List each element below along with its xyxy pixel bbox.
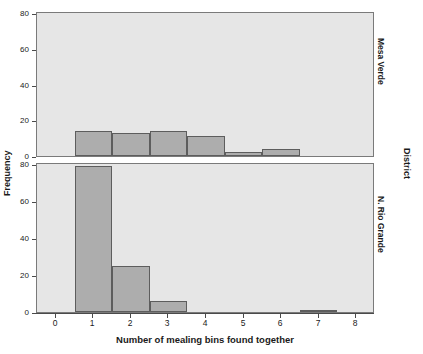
plot-area-n-rio-grande: [37, 164, 373, 312]
bar: [150, 301, 188, 312]
y-tick-mark: [32, 14, 36, 15]
x-tick-label: 8: [348, 319, 362, 328]
strip-label-mesa-verde: Mesa Verde: [376, 38, 386, 85]
bar: [75, 166, 113, 312]
y-tick-mark: [32, 86, 36, 87]
bar: [112, 266, 150, 312]
plot-area-mesa-verde: [37, 13, 373, 156]
y-tick-mark: [32, 313, 36, 314]
panel-n-rio-grande: [36, 163, 374, 313]
bar: [187, 136, 225, 156]
bar: [75, 131, 113, 156]
y-axis-title: Frequency: [2, 182, 12, 196]
x-tick-label: 6: [273, 319, 287, 328]
y-tick-mark: [32, 165, 36, 166]
y-tick-label: 80: [11, 161, 29, 169]
x-tick-label: 7: [311, 319, 325, 328]
y-tick-mark: [32, 202, 36, 203]
bar: [225, 152, 263, 156]
y-tick-mark: [32, 121, 36, 122]
y-tick-label: 40: [11, 82, 29, 90]
y-tick-label: 60: [11, 198, 29, 206]
bar: [112, 133, 150, 156]
x-tick-label: 3: [160, 319, 174, 328]
bar: [262, 149, 300, 156]
y-tick-label: 60: [11, 46, 29, 54]
y-tick-label: 80: [11, 10, 29, 18]
histogram-figure: Frequency 002020404060608080012345678 Nu…: [0, 0, 423, 354]
x-tick-label: 0: [48, 319, 62, 328]
x-tick-label: 2: [123, 319, 137, 328]
y-tick-mark: [32, 157, 36, 158]
x-tick-label: 4: [198, 319, 212, 328]
y-tick-label: 20: [11, 117, 29, 125]
y-tick-label: 0: [11, 309, 29, 317]
bar: [300, 310, 338, 312]
y-tick-mark: [32, 276, 36, 277]
strip-label-n-rio-grande: N. Rio Grande: [376, 196, 386, 253]
y-tick-mark: [32, 50, 36, 51]
x-axis-title: Number of mealing bins found together: [36, 334, 374, 345]
strip-label-district: District: [402, 148, 412, 179]
x-tick-label: 1: [85, 319, 99, 328]
bar: [150, 131, 188, 156]
y-tick-mark: [32, 239, 36, 240]
panel-mesa-verde: [36, 12, 374, 157]
y-tick-label: 40: [11, 235, 29, 243]
y-tick-label: 20: [11, 272, 29, 280]
x-tick-label: 5: [236, 319, 250, 328]
